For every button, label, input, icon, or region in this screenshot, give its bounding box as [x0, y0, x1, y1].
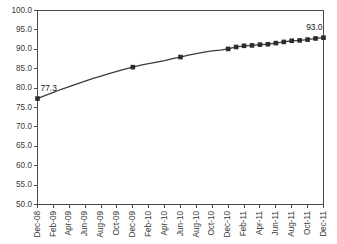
line-chart: 100.095.090.085.080.075.070.065.060.055.…: [0, 0, 337, 244]
y-tick-label: 60.0: [16, 161, 32, 170]
chart-canvas: 100.095.090.085.080.075.070.065.060.055.…: [0, 0, 337, 244]
data-point-marker: [266, 42, 271, 47]
data-point-marker: [313, 36, 318, 41]
x-tick-label: Dec-10: [223, 211, 232, 238]
y-tick-label: 55.0: [16, 180, 32, 189]
y-tick-label: 50.0: [16, 200, 32, 209]
x-tick-label: Feb-10: [144, 211, 153, 237]
data-point-marker: [250, 43, 255, 48]
x-tick-label: Apr-11: [255, 211, 264, 235]
x-tick-label: Feb-09: [49, 211, 58, 237]
x-axis: Dec-08Feb-09Apr-09Jun-09Aug-09Oct-09Dec-…: [33, 205, 328, 238]
y-tick-label: 95.0: [16, 25, 32, 34]
x-tick-label: Oct-09: [112, 211, 121, 236]
x-tick-label: Apr-10: [160, 211, 169, 236]
y-tick-label: 100.0: [12, 6, 33, 15]
y-tick-label: 80.0: [16, 83, 32, 92]
data-point-marker: [321, 35, 326, 40]
data-point-marker: [35, 96, 40, 101]
x-tick-label: Aug-09: [96, 211, 105, 238]
y-tick-label: 65.0: [16, 141, 32, 150]
data-point-marker: [226, 47, 231, 52]
x-tick-label: Jun-10: [176, 211, 185, 236]
data-point-marker: [297, 38, 302, 43]
x-tick-label: Dec-09: [128, 211, 137, 238]
x-tick-label: Oct-11: [303, 211, 312, 235]
y-tick-label: 90.0: [16, 44, 32, 53]
data-point-marker: [242, 44, 247, 49]
x-tick-label: Dec-11: [319, 211, 328, 237]
y-tick-label: 70.0: [16, 122, 32, 131]
x-tick-label: Dec-08: [33, 211, 42, 238]
x-tick-label: Aug-11: [287, 211, 296, 237]
data-point-marker: [234, 45, 239, 50]
data-point-marker: [305, 37, 310, 42]
y-tick-label: 85.0: [16, 64, 32, 73]
x-tick-label: Feb-11: [239, 211, 248, 237]
data-point-marker: [178, 55, 183, 60]
y-tick-label: 75.0: [16, 103, 32, 112]
last-point-label: 93.0: [306, 22, 323, 32]
data-point-marker: [274, 41, 279, 46]
data-point-marker: [258, 42, 263, 47]
x-tick-label: Oct-10: [207, 211, 216, 236]
data-point-marker: [281, 40, 286, 45]
x-tick-label: Apr-09: [64, 211, 73, 236]
y-axis: 100.095.090.085.080.075.070.065.060.055.…: [12, 6, 38, 209]
data-point-marker: [131, 65, 136, 70]
x-tick-label: Jun-09: [80, 211, 89, 236]
first-point-label: 77.3: [41, 83, 58, 93]
plot-background: [38, 11, 324, 205]
data-point-marker: [289, 38, 294, 43]
x-tick-label: Aug-10: [192, 211, 201, 238]
x-tick-label: Jun-11: [271, 211, 280, 236]
